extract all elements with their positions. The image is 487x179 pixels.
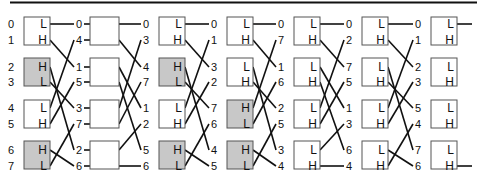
connection-wire (185, 150, 209, 166)
pass-through-box (90, 100, 119, 128)
comparator-bottom-label: H (308, 33, 317, 47)
comparator-top-label: L (378, 101, 385, 115)
index-label: 2 (76, 144, 82, 156)
connection-wire (50, 67, 74, 150)
index-label: 2 (415, 61, 421, 73)
index-label: 1 (8, 34, 14, 46)
comparator-top-label: L (447, 17, 454, 31)
index-label: 6 (346, 144, 352, 156)
index-label: 3 (278, 144, 284, 156)
index-label: 4 (143, 61, 149, 73)
comparator-top-label: L (378, 60, 385, 74)
comparator-bottom-label: H (38, 117, 47, 131)
index-label: 2 (211, 76, 217, 88)
connection-wire (388, 67, 413, 150)
comparator-top-label: H (38, 60, 47, 74)
comparator-bottom-label: H (445, 159, 454, 173)
connection-wire (50, 40, 74, 108)
comparator-top-label: H (38, 143, 47, 157)
comparator-top-label: L (447, 143, 454, 157)
comparator-top-label: L (310, 60, 317, 74)
comparator-bottom-label: L (243, 159, 250, 173)
comparator-top-label: H (173, 143, 182, 157)
comparator-top-label: L (243, 60, 250, 74)
pass-through-box (90, 141, 119, 169)
index-label: 0 (415, 18, 421, 30)
connection-wire (388, 40, 413, 67)
connection-wire (253, 150, 276, 166)
connection-wire (320, 40, 344, 67)
index-label: 4 (346, 160, 352, 172)
connection-wire (388, 150, 413, 166)
index-label: 4 (278, 160, 284, 172)
comparator-top-label: L (310, 101, 317, 115)
index-label: 6 (143, 160, 149, 172)
index-label: 7 (346, 61, 352, 73)
connection-wire (185, 67, 209, 150)
index-label: 4 (76, 34, 82, 46)
connection-wire (388, 124, 413, 166)
comparator-top-label: L (243, 17, 250, 31)
index-label: 5 (143, 144, 149, 156)
index-label: 6 (8, 144, 14, 156)
index-label: 4 (211, 144, 217, 156)
comparator-bottom-label: L (243, 117, 250, 131)
connection-wire (119, 124, 141, 150)
comparator-bottom-label: H (38, 33, 47, 47)
comparator-bottom-label: H (445, 75, 454, 89)
comparator-bottom-label: H (308, 159, 317, 173)
index-label: 5 (8, 118, 14, 130)
comparator-bottom-label: H (173, 33, 182, 47)
index-label: 1 (76, 61, 82, 73)
sorting-network-diagram: LHHLLHHLLHHLLHHLLHLHHLHLLHLHLHLHLHLHLHLH… (0, 0, 487, 179)
index-label: 5 (278, 118, 284, 130)
index-label: 3 (211, 61, 217, 73)
connection-wire (253, 124, 276, 166)
comparator-bottom-label: L (40, 159, 47, 173)
comparator-top-label: L (447, 60, 454, 74)
connection-wire (185, 40, 209, 108)
index-label: 1 (346, 102, 352, 114)
comparator-bottom-label: H (308, 117, 317, 131)
comparator-bottom-label: H (241, 33, 250, 47)
comparator-bottom-label: H (173, 117, 182, 131)
index-label: 6 (211, 118, 217, 130)
index-label: 0 (76, 18, 82, 30)
comparator-bottom-label: L (175, 75, 182, 89)
comparator-top-label: L (378, 143, 385, 157)
connection-wire (185, 124, 209, 166)
index-label: 4 (415, 118, 421, 130)
connection-wire (50, 124, 74, 166)
index-label: 0 (278, 18, 284, 30)
connection-wire (388, 40, 413, 108)
index-label: 7 (415, 144, 421, 156)
comparator-top-label: L (175, 101, 182, 115)
index-label: 2 (278, 102, 284, 114)
comparator-bottom-label: H (376, 117, 385, 131)
index-label: 4 (8, 102, 14, 114)
index-label: 2 (8, 61, 14, 73)
index-label: 1 (143, 102, 149, 114)
index-label: 7 (143, 76, 149, 88)
connection-wire (50, 40, 74, 67)
comparator-top-label: L (175, 17, 182, 31)
comparator-bottom-label: L (175, 159, 182, 173)
comparator-bottom-label: H (445, 117, 454, 131)
comparator-top-label: L (40, 101, 47, 115)
index-label: 7 (278, 34, 284, 46)
index-label: 1 (278, 61, 284, 73)
index-label: 5 (211, 160, 217, 172)
comparator-bottom-label: H (376, 75, 385, 89)
index-label: 3 (143, 34, 149, 46)
pass-through-box (90, 58, 119, 86)
index-label: 2 (346, 34, 352, 46)
comparator-top-label: H (173, 60, 182, 74)
connection-wire (253, 40, 276, 108)
connection-wire (253, 67, 276, 150)
index-label: 6 (76, 160, 82, 172)
comparator-top-label: H (241, 143, 250, 157)
comparator-bottom-label: H (376, 159, 385, 173)
comparator-bottom-label: H (376, 33, 385, 47)
index-label: 1 (415, 34, 421, 46)
comparator-top-label: L (447, 101, 454, 115)
